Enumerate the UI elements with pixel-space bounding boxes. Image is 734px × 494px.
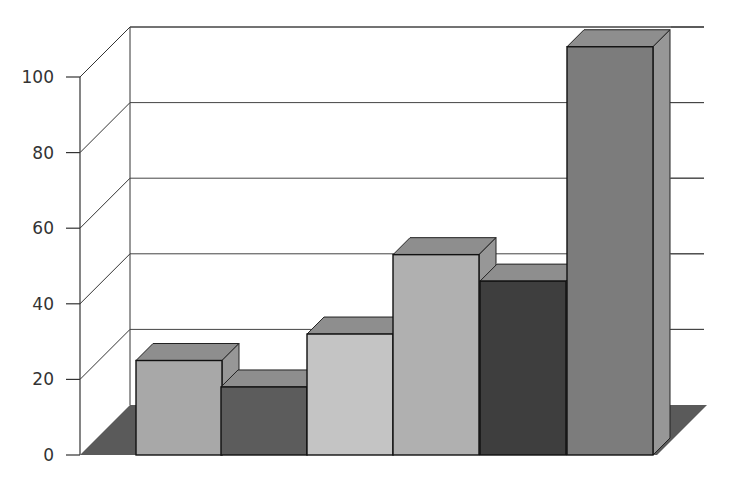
bar-front-face: [393, 255, 479, 455]
gridlines-right-stubs: [671, 27, 704, 329]
gridline-diagonal: [80, 254, 130, 304]
gridline-diagonal: [80, 329, 130, 379]
gridline-diagonal: [80, 103, 130, 153]
y-axis: 020406080100: [22, 67, 80, 465]
y-tick-label: 40: [32, 294, 54, 314]
y-tick-label: 80: [32, 143, 54, 163]
bar-front-face: [307, 334, 393, 455]
gridline-diagonal: [80, 27, 130, 77]
bars: [136, 30, 670, 455]
gridline-diagonal: [80, 178, 130, 228]
y-tick-label: 0: [43, 445, 54, 465]
bar-top-face: [393, 238, 496, 255]
bar-front-face: [567, 47, 653, 455]
bar-6: [567, 30, 670, 455]
bar-front-face: [136, 361, 222, 456]
bar-front-face: [221, 387, 307, 455]
bar-front-face: [480, 281, 566, 455]
y-tick-label: 60: [32, 218, 54, 238]
bar-side-face: [653, 30, 670, 455]
y-tick-label: 100: [22, 67, 54, 87]
bar-top-face: [567, 30, 670, 47]
bar-top-face: [136, 344, 239, 361]
chart-walls: [80, 27, 130, 455]
y-tick-label: 20: [32, 369, 54, 389]
bar-chart-3d: 020406080100: [0, 0, 734, 494]
